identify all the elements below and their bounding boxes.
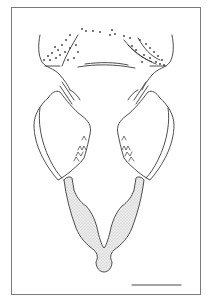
illustration bbox=[0, 0, 208, 305]
tergite bbox=[39, 35, 174, 90]
aedeagus bbox=[64, 177, 144, 272]
left-valve bbox=[34, 82, 91, 180]
figure-panel bbox=[0, 0, 208, 305]
right-valve bbox=[117, 82, 174, 180]
setae bbox=[43, 28, 165, 66]
